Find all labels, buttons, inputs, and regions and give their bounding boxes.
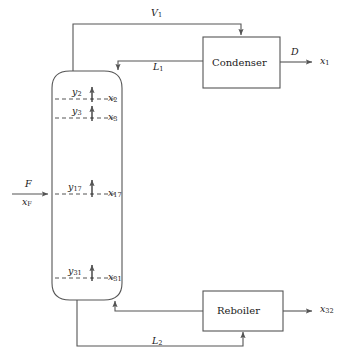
stream-label-distillate-comp: x1 — [320, 56, 330, 67]
tray-vapor-label-2: y2 — [72, 87, 82, 98]
tray-liquid-label-3: x3 — [108, 112, 118, 123]
stream-label-bottoms: L2 — [152, 336, 163, 347]
tray-vapor-label-17: y17 — [68, 182, 82, 193]
reboiler-label: Reboiler — [217, 305, 260, 316]
stream-label-feed: F — [25, 179, 32, 189]
stream-label-reflux: L1 — [153, 62, 164, 73]
stream-label-vapor-top: V1 — [151, 8, 162, 19]
stream-label-bottoms-comp: x32 — [320, 304, 334, 315]
tray-liquid-label-31: x31 — [108, 272, 122, 283]
distillation-flowsheet: Condenser Reboiler V1 L1 D x1 F xF L2 x3… — [0, 0, 349, 364]
stream-label-distillate: D — [291, 47, 299, 57]
tray-liquid-label-17: x17 — [108, 188, 122, 199]
tray-vapor-label-31: y31 — [68, 266, 82, 277]
tray-liquid-label-2: x2 — [108, 93, 118, 104]
stream-label-feed-comp: xF — [22, 197, 32, 208]
condenser-label: Condenser — [212, 57, 267, 68]
stream-line-boilup — [115, 301, 203, 311]
tray-vapor-label-3: y3 — [72, 106, 82, 117]
column-shell — [52, 71, 122, 300]
